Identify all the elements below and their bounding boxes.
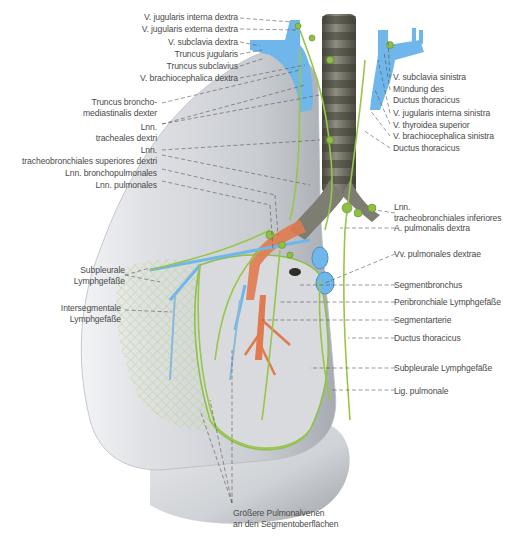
label-segmentarterie: Segmentarterie: [394, 315, 451, 326]
label-v-jugularis-interna-dextra: V. jugularis interna dextra: [144, 12, 238, 23]
label-v-brachiocephalica-sinistra: V. brachiocephalica sinistra: [393, 131, 494, 142]
label-lnn-tracheales-dextri: Lnn. tracheales dextri: [96, 122, 157, 143]
label-lnn-tracheobronchiales-superiores-dextri: Lnn. tracheobronchiales superiores dextr…: [22, 145, 157, 166]
label-v-subclavia-sinistra: V. subclavia sinistra: [393, 72, 466, 83]
label-v-thyroidea-superior: V. thyroidea superior: [393, 120, 469, 131]
label-subpleurale-lymphgefaesse-left: Subpleurale Lymphgefäße: [74, 265, 125, 286]
label-v-jugularis-interna-sinistra: V. jugularis interna sinistra: [393, 108, 490, 119]
label-truncus-jugularis: Truncus jugularis: [175, 49, 238, 60]
vv-pulmonales-shape: [312, 247, 328, 269]
label-lnn-bronchopulmonales: Lnn. bronchopulmonales: [65, 168, 157, 179]
label-truncus-bronchomediastinalis-dexter: Truncus broncho- mediastinalis dexter: [83, 97, 157, 118]
label-ductus-thoracicus-top: Ductus thoracicus: [393, 143, 460, 154]
label-peribronchiale-lymphgefaesse: Peribronchiale Lymphgefäße: [394, 297, 501, 308]
label-segmentbronchus: Segmentbronchus: [394, 280, 462, 291]
label-muendung-des-ductus-thoracicus: Mündung des Ductus thoracicus: [393, 84, 460, 105]
label-v-subclavia-dextra: V. subclavia dextra: [168, 37, 238, 48]
label-a-pulmonalis-dextra: A. pulmonalis dextra: [394, 223, 470, 234]
label-vv-pulmonales-dextrae: Vv. pulmonales dextrae: [394, 249, 481, 260]
label-lig-pulmonale: Lig. pulmonale: [394, 386, 449, 397]
label-groessere-pulmonalvenen: Größere Pulmonalvenen an den Segmentober…: [233, 508, 338, 529]
label-intersegmentale-lymphgefaesse: Intersegmentale Lymphgefäße: [61, 303, 121, 324]
label-ductus-thoracicus-bottom: Ductus thoracicus: [394, 333, 461, 344]
label-truncus-subclavius: Truncus subclavius: [167, 61, 238, 72]
label-lnn-pulmonales: Lnn. pulmonales: [95, 180, 157, 191]
label-v-brachiocephalica-dextra: V. brachiocephalica dextra: [140, 73, 238, 84]
label-lnn-tracheobronchiales-inferiores: Lnn. tracheobronchiales inferiores: [394, 202, 501, 223]
label-subpleurale-lymphgefaesse-right: Subpleurale Lymphgefäße: [394, 363, 492, 374]
segmentbronchus-shape: [289, 268, 301, 276]
label-v-jugularis-externa-dextra: V. jugularis externa dextra: [142, 24, 238, 35]
anatomy-figure: V. jugularis interna dextra V. jugularis…: [0, 0, 519, 537]
